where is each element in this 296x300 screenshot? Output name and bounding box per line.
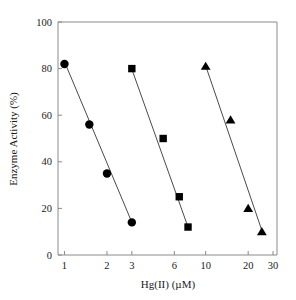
y-tick-label: 0	[47, 250, 52, 261]
x-tick-label: 3	[129, 260, 134, 271]
enzyme-activity-scatter-chart: 1236102030 020406080100 Hg(II) (µM) Enzy…	[0, 0, 296, 300]
y-tick-label: 100	[36, 17, 52, 28]
data-point-circle	[103, 169, 111, 177]
x-tick-label: 1	[62, 260, 67, 271]
x-axis-title: Hg(II) (µM)	[141, 278, 196, 291]
y-tick-label: 60	[42, 110, 53, 121]
data-point-square	[159, 135, 166, 142]
y-tick-label: 80	[42, 63, 53, 74]
chart-figure: 1236102030 020406080100 Hg(II) (µM) Enzy…	[0, 0, 296, 300]
y-tick-label: 20	[42, 203, 53, 214]
x-tick-label: 10	[200, 260, 211, 271]
x-tick-label: 20	[243, 260, 254, 271]
x-tick-label: 2	[104, 260, 109, 271]
x-tick-label: 30	[268, 260, 279, 271]
data-point-circle	[60, 60, 68, 68]
data-point-square	[128, 65, 135, 72]
data-point-circle	[128, 218, 136, 226]
data-point-square	[176, 193, 183, 200]
data-point-circle	[85, 120, 93, 128]
y-axis-title: Enzyme Activity (%)	[7, 92, 20, 186]
x-tick-label: 6	[172, 260, 177, 271]
y-tick-label: 40	[42, 156, 53, 167]
data-point-square	[184, 223, 191, 230]
